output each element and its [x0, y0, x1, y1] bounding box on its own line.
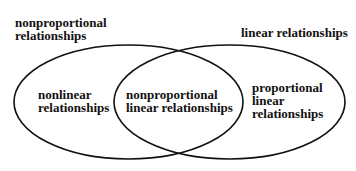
right-only-region-label: proportional linear relationships	[252, 81, 323, 120]
region-line: relationships	[38, 101, 109, 114]
intersection-region-label: nonproportional linear relationships	[126, 88, 233, 114]
region-line: linear relationships	[126, 101, 233, 114]
linear-set-title: linear relationships	[241, 26, 348, 39]
nonproportional-set-title: nonproportional relationships	[15, 16, 107, 42]
title-line: relationships	[15, 29, 107, 42]
region-line: relationships	[252, 107, 323, 120]
left-only-region-label: nonlinear relationships	[38, 88, 109, 114]
title-line: linear relationships	[241, 26, 348, 39]
